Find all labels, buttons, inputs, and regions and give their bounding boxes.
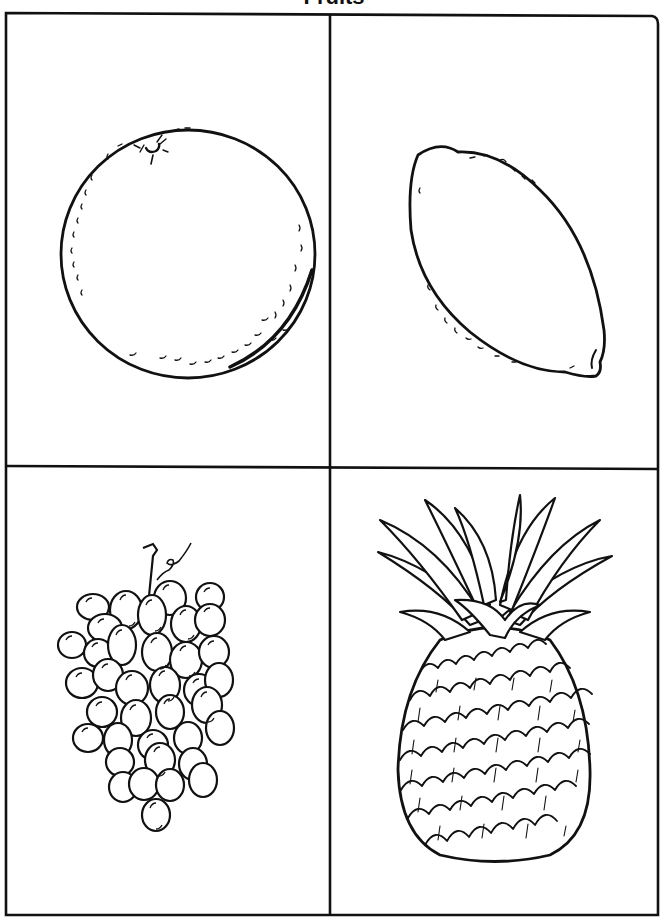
pineapple-illustration [378,495,612,862]
coloring-sheet [0,0,668,917]
grapes-illustration [58,543,234,831]
orange-illustration [61,128,315,378]
lemon-illustration [410,147,605,377]
